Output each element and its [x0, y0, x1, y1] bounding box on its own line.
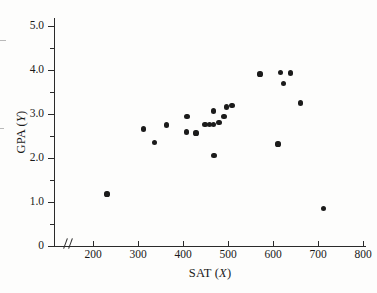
data-point: [321, 206, 326, 211]
data-point: [152, 140, 157, 145]
data-point: [229, 103, 234, 108]
data-point: [221, 114, 226, 119]
data-point: [211, 122, 216, 127]
data-point: [275, 141, 280, 146]
data-point: [288, 70, 293, 75]
scatter-plot-figure: GPA (Y) SAT (X) 01.02.03.04.05.020030040…: [0, 0, 377, 293]
data-points-group: [0, 0, 377, 293]
data-point: [164, 122, 169, 127]
data-point: [184, 129, 189, 134]
data-point: [211, 153, 216, 158]
data-point: [224, 104, 229, 109]
data-point: [216, 120, 221, 125]
data-point: [104, 191, 109, 196]
data-point: [298, 100, 303, 105]
data-point: [211, 108, 216, 113]
data-point: [193, 130, 198, 135]
data-point: [257, 71, 262, 76]
data-point: [278, 70, 283, 75]
data-point: [281, 81, 286, 86]
data-point: [141, 126, 146, 131]
data-point: [184, 114, 189, 119]
